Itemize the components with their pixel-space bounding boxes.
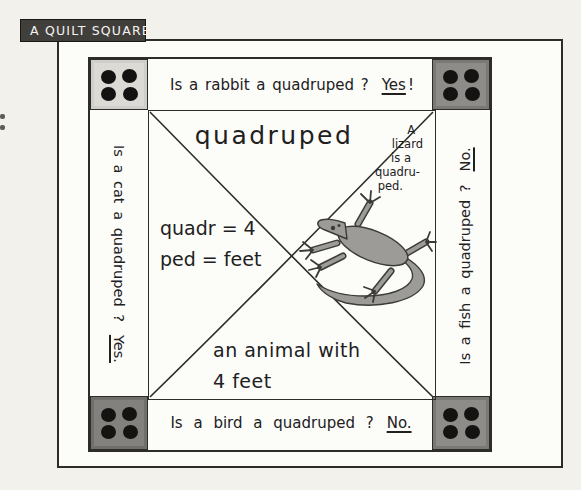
patch-dot	[101, 425, 116, 439]
center-square: quadruped quadr = 4 ped = feet A lizard …	[148, 110, 436, 400]
etymology-line-1: quadr = 4	[160, 213, 261, 244]
question-rabbit-text: Is a rabbit a quadruped ?	[170, 76, 369, 94]
patch-dot	[123, 87, 138, 101]
question-cat-text: Is a cat a quadruped ?	[111, 145, 127, 322]
corner-patch-top-left	[90, 59, 148, 110]
question-cat: Is a cat a quadruped ? Yes.	[90, 110, 148, 400]
patch-dot	[443, 70, 458, 84]
example-line: A	[375, 123, 415, 137]
patch-dot	[464, 407, 479, 421]
four-dot-quilt-patch-icon	[101, 69, 137, 101]
patch-dot	[122, 407, 137, 421]
figure-title-label: A QUILT SQUARE	[30, 23, 151, 38]
example-line: ped.	[375, 179, 403, 193]
etymology-line-2: ped = feet	[160, 244, 261, 275]
etymology-note: quadr = 4 ped = feet	[160, 213, 261, 275]
four-dot-quilt-patch-icon	[101, 407, 137, 439]
question-rabbit-suffix: !	[408, 76, 414, 94]
corner-patch-bottom-left	[90, 396, 148, 450]
figure-title: A QUILT SQUARE	[20, 19, 146, 42]
question-bird-text: Is a bird a quadruped ?	[170, 414, 373, 432]
definition-text: an animal with 4 feet	[213, 335, 360, 397]
corner-patch-bottom-right	[432, 396, 490, 450]
patch-dot	[443, 87, 458, 101]
example-line: quadru-	[375, 165, 420, 179]
four-dot-quilt-patch-icon	[443, 69, 479, 101]
patch-dot	[464, 69, 479, 83]
four-dot-quilt-patch-icon	[443, 407, 479, 439]
quilt-square: Is a rabbit a quadruped ? Yes ! Is a cat…	[88, 57, 492, 452]
patch-dot	[465, 425, 480, 439]
question-fish-text: Is a fish a quadruped ?	[457, 184, 473, 364]
patch-dot	[443, 408, 458, 422]
question-bird-answer: No.	[387, 414, 412, 432]
question-fish: Is a fish a quadruped ? No.	[436, 110, 494, 400]
question-rabbit-answer: Yes	[382, 76, 406, 94]
question-bird: Is a bird a quadruped ? No.	[148, 396, 436, 450]
example-line: lizard	[375, 137, 423, 151]
patch-dot	[101, 70, 116, 84]
lizard-icon	[300, 191, 436, 305]
patch-dot	[122, 69, 137, 83]
patch-dot	[465, 87, 480, 101]
worksheet-page: A QUILT SQUARE Is a rabbit a quadruped	[0, 0, 581, 490]
patch-dot	[443, 425, 458, 439]
definition-line-1: an animal with	[213, 335, 360, 366]
question-fish-answer: No.	[457, 147, 473, 171]
margin-marks	[0, 114, 6, 136]
patch-dot	[101, 408, 116, 422]
patch-dot	[101, 87, 116, 101]
patch-dot	[123, 425, 138, 439]
corner-patch-top-right	[432, 59, 490, 110]
vocabulary-word: quadruped	[169, 121, 379, 150]
question-cat-answer: Yes.	[111, 335, 127, 363]
example-line: is a	[375, 151, 411, 165]
question-rabbit: Is a rabbit a quadruped ? Yes !	[148, 59, 436, 110]
definition-line-2: 4 feet	[213, 366, 360, 397]
example-sentence: A lizard is a quadru- ped.	[375, 123, 423, 193]
